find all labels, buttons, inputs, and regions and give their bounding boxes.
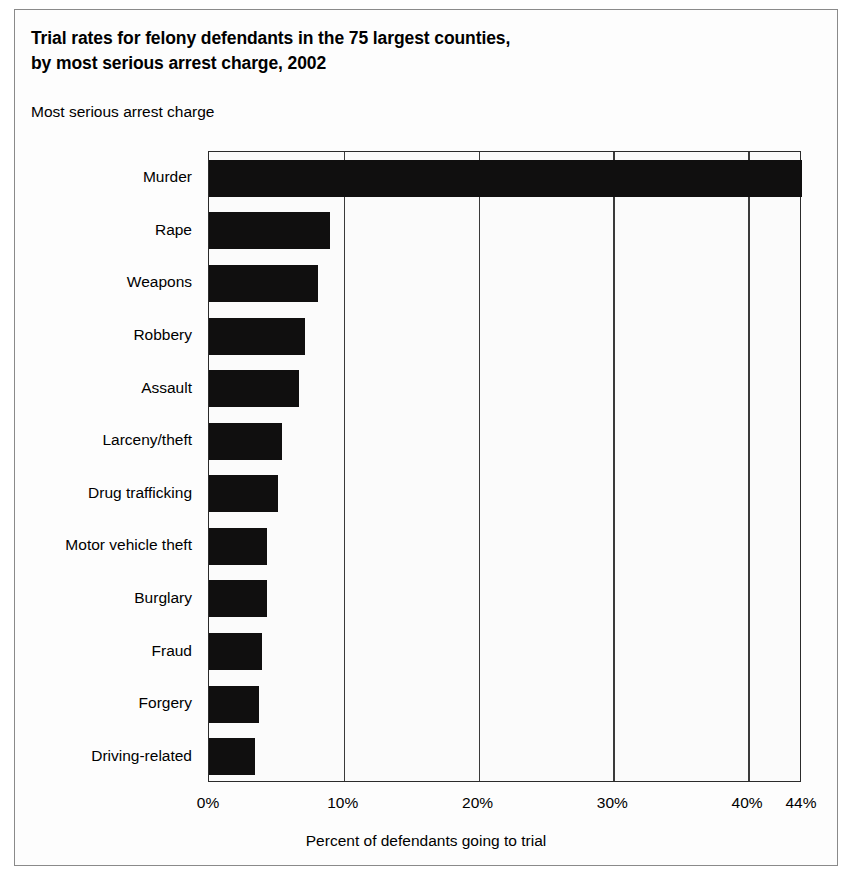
bar-row (209, 152, 800, 205)
bar (209, 528, 267, 565)
bar (209, 265, 318, 302)
category-label: Weapons (127, 274, 192, 290)
bar-row (209, 678, 800, 731)
bar (209, 475, 278, 512)
plot-area (208, 151, 801, 782)
chart-title: Trial rates for felony defendants in the… (31, 26, 731, 77)
bar (209, 160, 802, 197)
category-label: Burglary (134, 590, 192, 606)
bar-row (209, 468, 800, 521)
x-axis-title: Percent of defendants going to trial (15, 832, 837, 850)
chart-title-line-2: by most serious arrest charge, 2002 (31, 51, 731, 76)
bar (209, 370, 299, 407)
bar (209, 212, 330, 249)
chart-title-line-1: Trial rates for felony defendants in the… (31, 26, 731, 51)
category-label: Robbery (133, 327, 192, 343)
category-label: Driving-related (91, 748, 192, 764)
bar (209, 738, 255, 775)
bar-row (209, 520, 800, 573)
bar (209, 686, 259, 723)
bar (209, 580, 267, 617)
category-label: Fraud (152, 643, 193, 659)
x-tick-label: 20% (462, 794, 493, 812)
category-label: Rape (155, 222, 192, 238)
bar-row (209, 573, 800, 626)
bar-row (209, 730, 800, 783)
category-label: Murder (143, 169, 192, 185)
category-axis-heading: Most serious arrest charge (31, 103, 215, 121)
category-label: Assault (141, 380, 192, 396)
category-label: Larceny/theft (102, 432, 192, 448)
category-label: Forgery (139, 695, 192, 711)
chart-figure: Trial rates for felony defendants in the… (14, 9, 838, 866)
bar (209, 633, 262, 670)
x-tick-label: 40% (732, 794, 763, 812)
bar (209, 423, 282, 460)
bar-row (209, 310, 800, 363)
bar-row (209, 415, 800, 468)
bar-row (209, 625, 800, 678)
bar-row (209, 205, 800, 258)
x-tick-label: 0% (197, 794, 219, 812)
bar-row (209, 257, 800, 310)
bar (209, 318, 305, 355)
bar-row (209, 362, 800, 415)
x-tick-label: 10% (327, 794, 358, 812)
x-tick-label: 44% (785, 794, 816, 812)
x-tick-label: 30% (597, 794, 628, 812)
category-label: Motor vehicle theft (65, 537, 192, 553)
category-label: Drug trafficking (88, 485, 192, 501)
